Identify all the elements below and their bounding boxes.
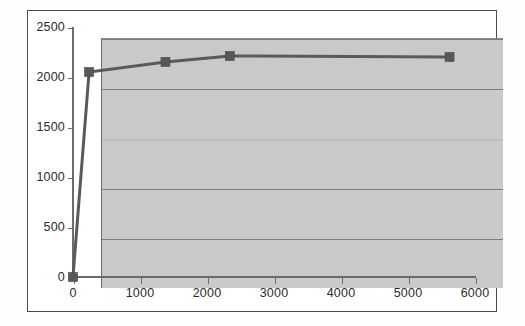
x-tick-mark-3000 — [275, 278, 276, 284]
x-tick-mark-6000 — [476, 278, 477, 284]
y-tick-label-500: 500 — [27, 220, 65, 234]
x-tick-label-4000: 4000 — [327, 286, 356, 300]
y-tick-label-2500: 2500 — [27, 20, 65, 34]
plot-area — [101, 38, 503, 288]
x-tick-label-2000: 2000 — [193, 286, 222, 300]
x-tick-mark-0 — [74, 278, 75, 284]
gridline-y-2500 — [102, 39, 503, 40]
x-tick-mark-4000 — [342, 278, 343, 284]
gridline-y-2000 — [102, 89, 503, 90]
x-tick-label-6000: 6000 — [461, 286, 490, 300]
x-tick-label-5000: 5000 — [394, 286, 423, 300]
y-axis-line — [72, 27, 74, 277]
x-tick-mark-1000 — [141, 278, 142, 284]
y-tick-label-0: 0 — [27, 270, 65, 284]
chart-frame — [27, 10, 497, 312]
scan-noise-overlay — [102, 39, 503, 288]
x-tick-mark-2000 — [208, 278, 209, 284]
chart-figure: 05001000150020002500 0100020003000400050… — [0, 0, 525, 326]
gridline-y-1500 — [102, 139, 503, 141]
x-tick-label-1000: 1000 — [126, 286, 155, 300]
x-tick-label-0: 0 — [69, 286, 76, 300]
y-axis-tick-labels: 05001000150020002500 — [27, 0, 65, 326]
y-tick-label-1000: 1000 — [27, 170, 65, 184]
gridline-y-500 — [102, 239, 503, 240]
y-tick-label-2000: 2000 — [27, 70, 65, 84]
x-tick-label-3000: 3000 — [260, 286, 289, 300]
x-axis-tick-labels: 0100020003000400050006000 — [0, 286, 525, 304]
x-tick-mark-5000 — [409, 278, 410, 284]
x-axis-line — [73, 276, 476, 278]
y-tick-label-1500: 1500 — [27, 120, 65, 134]
gridline-y-1000 — [102, 189, 503, 190]
